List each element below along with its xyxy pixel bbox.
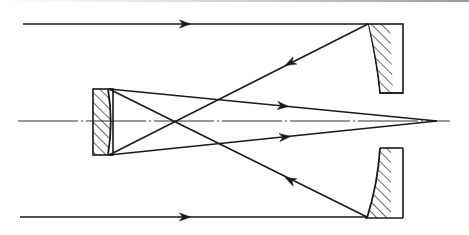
- ray-secondary-top-to-focus: [109, 89, 437, 121]
- primary-mirror-top: [367, 24, 403, 94]
- ray-reflect-top-primary: [109, 24, 368, 155]
- ray-reflect-bottom-primary: [109, 89, 367, 217]
- telescope-ray-diagram: [0, 0, 469, 235]
- secondary-mirror: [93, 89, 113, 155]
- ray-incoming-bottom: [20, 213, 367, 221]
- primary-mirror-bottom: [365, 148, 403, 218]
- ray-incoming-top: [23, 20, 368, 28]
